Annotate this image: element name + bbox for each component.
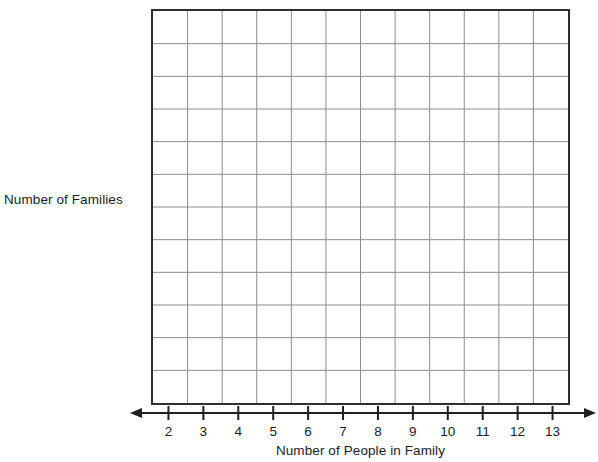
x-tick-label-6: 6 xyxy=(293,423,323,440)
x-tick-label-9: 9 xyxy=(398,423,428,440)
chart-page: Number of Families 2345678910111213 Numb… xyxy=(0,0,598,462)
x-tick-label-11: 11 xyxy=(468,423,498,440)
x-tick-label-13: 13 xyxy=(538,423,568,440)
x-tick-label-10: 10 xyxy=(433,423,463,440)
plot-area xyxy=(151,9,570,405)
y-axis-title: Number of Families xyxy=(4,192,146,208)
x-tick-label-5: 5 xyxy=(258,423,288,440)
x-tick-label-8: 8 xyxy=(363,423,393,440)
x-tick-label-7: 7 xyxy=(328,423,358,440)
x-tick-label-3: 3 xyxy=(188,423,218,440)
x-tick-label-4: 4 xyxy=(223,423,253,440)
x-tick-label-2: 2 xyxy=(153,423,183,440)
x-axis-title: Number of People in Family xyxy=(151,442,570,459)
grid-lines xyxy=(153,11,568,403)
x-tick-label-12: 12 xyxy=(503,423,533,440)
